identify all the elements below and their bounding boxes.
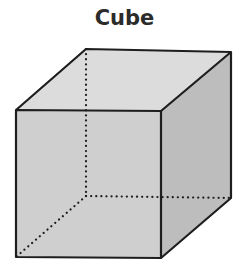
cube-drawing — [0, 0, 249, 268]
front-face — [16, 110, 161, 258]
cube-diagram: Cube — [0, 0, 249, 268]
